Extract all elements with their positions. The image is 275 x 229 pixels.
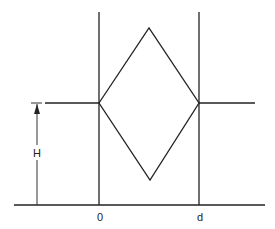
arrow-up-icon [34, 104, 40, 114]
diagram-canvas: H 0 d [0, 0, 275, 229]
distance-label: d [197, 211, 203, 223]
height-label: H [33, 147, 41, 159]
rhombus-shape [99, 28, 199, 180]
origin-label: 0 [97, 211, 103, 223]
